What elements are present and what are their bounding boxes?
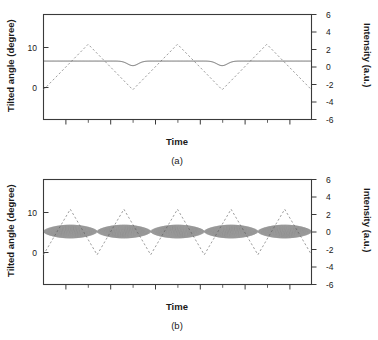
- panel-b-ylabel-right: Intensity (a.u.): [362, 188, 373, 252]
- panel-a-ylabel-right: Intensity (a.u.): [362, 23, 373, 87]
- panel-b-left-tick-10: 10: [28, 208, 38, 218]
- panel-b-right-tickmarks: [312, 180, 317, 285]
- panel-a-frame: [44, 15, 312, 120]
- panel-b-xlabel: Time: [166, 301, 188, 312]
- panel-a-left-tick-0: 0: [32, 83, 37, 93]
- panel-a-right-tickmarks: [312, 15, 317, 120]
- panel-a-intensity-curve: [44, 44, 312, 90]
- panel-b-right-tick-m4: -4: [326, 262, 334, 272]
- panel-a-right-tick-6: 6: [326, 10, 331, 20]
- panel-a-caption: (a): [171, 155, 183, 166]
- panel-a-plot: Tilted angle (degree) Intensity (a.u.) 1…: [0, 0, 378, 170]
- panel-a-tilted-angle-curve: [44, 61, 312, 66]
- panel-b-x-tickmarks: [66, 285, 290, 290]
- panel-b-tilted-angle-curve: [44, 225, 312, 239]
- panel-b: Tilted angle (degree) Intensity (a.u.) 1…: [0, 167, 378, 340]
- panel-b-plot: Tilted angle (degree) Intensity (a.u.) 1…: [0, 167, 378, 340]
- panel-a-right-tick-0: 0: [326, 62, 331, 72]
- panel-a-left-tickmarks: [44, 48, 49, 88]
- panel-b-caption: (b): [171, 320, 183, 331]
- panel-a-data: [44, 44, 312, 90]
- panel-b-ylabel-left: Tilted angle (degree): [5, 184, 16, 277]
- panel-a-right-tick-4: 4: [326, 27, 331, 37]
- panel-b-left-tick-0: 0: [32, 248, 37, 258]
- panel-a-right-tick-m4: -4: [326, 97, 334, 107]
- panel-b-right-tick-4: 4: [326, 192, 331, 202]
- panel-b-right-tick-2: 2: [326, 210, 331, 220]
- panel-b-data: [44, 209, 312, 255]
- figure-container: Tilted angle (degree) Intensity (a.u.) 1…: [0, 0, 378, 340]
- panel-a-xlabel: Time: [166, 136, 188, 147]
- panel-b-right-tick-m6: -6: [326, 280, 334, 290]
- panel-a-left-tick-10: 10: [28, 43, 38, 53]
- panel-a-right-tick-m6: -6: [326, 115, 334, 125]
- panel-b-right-tick-m2: -2: [326, 245, 334, 255]
- panel-a-right-tick-m2: -2: [326, 80, 334, 90]
- panel-a-x-tickmarks: [66, 120, 290, 125]
- panel-a: Tilted angle (degree) Intensity (a.u.) 1…: [0, 0, 378, 170]
- panel-a-right-tick-2: 2: [326, 45, 331, 55]
- panel-b-right-tick-0: 0: [326, 227, 331, 237]
- panel-a-ylabel-left: Tilted angle (degree): [5, 19, 16, 112]
- panel-b-right-tick-6: 6: [326, 175, 331, 185]
